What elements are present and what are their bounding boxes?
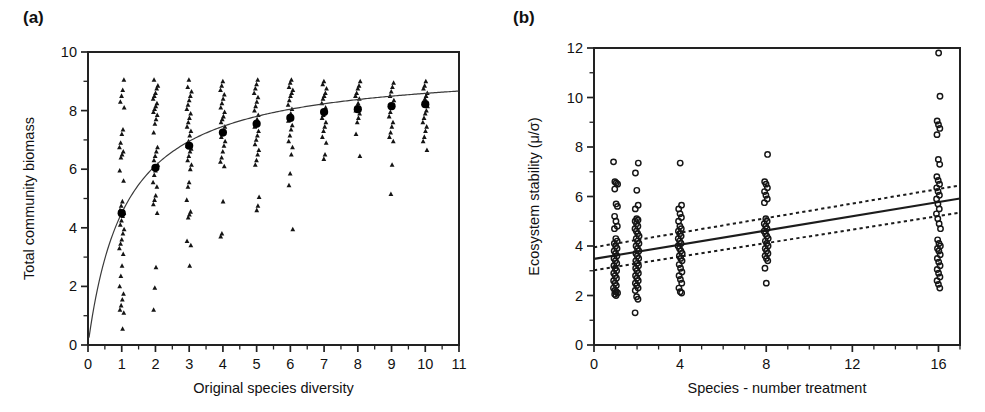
- data-point: [155, 112, 160, 117]
- figure-container: (a) 024681001234567891011Original specie…: [0, 0, 985, 412]
- data-point: [118, 99, 123, 104]
- data-point: [122, 227, 127, 232]
- data-point: [118, 307, 123, 312]
- y-tick-label: 2: [575, 288, 583, 304]
- data-point: [287, 183, 292, 188]
- data-point: [391, 98, 396, 103]
- data-point: [420, 120, 425, 125]
- panel-b-x-axis-title: Species - number treatment: [688, 380, 867, 396]
- data-point: [936, 50, 941, 55]
- mean-point: [118, 209, 126, 217]
- panel-a-x-axis-title: Original species diversity: [193, 380, 354, 396]
- data-point: [321, 79, 326, 84]
- data-point: [422, 134, 427, 139]
- data-point: [934, 132, 939, 137]
- data-point: [356, 115, 361, 120]
- data-point: [187, 180, 192, 185]
- data-point: [151, 202, 156, 207]
- data-point: [218, 87, 223, 92]
- data-point: [152, 172, 157, 177]
- y-tick-label: 4: [69, 220, 77, 236]
- y-tick-label: 4: [575, 238, 583, 254]
- panel-a-plot-frame: [88, 52, 459, 345]
- x-tick-label: 9: [388, 356, 396, 372]
- mean-point: [320, 108, 328, 116]
- data-point: [321, 156, 326, 161]
- data-point: [119, 203, 124, 208]
- x-tick-label: 10: [417, 356, 433, 372]
- data-point: [119, 237, 124, 242]
- data-point: [357, 83, 362, 88]
- data-point: [421, 139, 426, 144]
- data-point: [764, 280, 769, 285]
- panel-b-plot: 0246810120481216Species - number treatme…: [495, 0, 985, 412]
- data-point: [220, 79, 225, 84]
- data-point: [677, 160, 682, 165]
- data-point: [152, 158, 157, 163]
- x-tick-label: 4: [219, 356, 227, 372]
- data-point: [322, 124, 327, 129]
- data-point: [120, 326, 125, 331]
- data-point: [121, 149, 126, 154]
- data-point: [324, 86, 329, 91]
- data-point: [189, 89, 194, 94]
- x-tick-label: 12: [844, 356, 860, 372]
- data-point: [120, 297, 125, 302]
- data-point: [289, 152, 294, 157]
- x-tick-label: 4: [676, 356, 684, 372]
- data-point: [256, 148, 261, 153]
- data-point: [290, 227, 295, 232]
- data-point: [290, 145, 295, 150]
- panel-a-y-axis: 0246810: [61, 44, 88, 353]
- data-point: [188, 167, 193, 172]
- y-tick-label: 10: [567, 90, 583, 106]
- data-point: [121, 231, 126, 236]
- data-point: [252, 108, 257, 113]
- mean-point: [286, 114, 294, 122]
- data-point: [424, 124, 429, 129]
- data-point: [186, 120, 191, 125]
- data-point: [220, 149, 225, 154]
- data-point: [222, 92, 227, 97]
- data-point: [222, 109, 227, 114]
- data-point: [153, 193, 158, 198]
- data-point: [254, 99, 259, 104]
- data-point: [186, 153, 191, 158]
- y-tick-label: 6: [575, 189, 583, 205]
- data-point: [422, 83, 427, 88]
- data-point: [323, 90, 328, 95]
- data-point: [391, 139, 396, 144]
- data-point: [185, 124, 190, 129]
- data-point: [221, 199, 226, 204]
- data-point: [154, 149, 159, 154]
- data-point: [219, 83, 224, 88]
- x-tick-label: 16: [930, 356, 946, 372]
- data-point: [121, 127, 126, 132]
- x-tick-label: 1: [118, 356, 126, 372]
- data-point: [253, 142, 258, 147]
- data-point: [422, 115, 427, 120]
- data-point: [118, 274, 123, 279]
- data-point: [387, 114, 392, 119]
- data-point: [188, 209, 193, 214]
- mean-point: [219, 128, 227, 136]
- y-tick-label: 8: [69, 103, 77, 119]
- data-point: [221, 96, 226, 101]
- data-point: [184, 197, 189, 202]
- data-point: [423, 79, 428, 84]
- data-point: [254, 158, 259, 163]
- data-point: [222, 143, 227, 148]
- data-point: [256, 95, 261, 100]
- x-tick-label: 5: [253, 356, 261, 372]
- data-point: [354, 131, 359, 136]
- mean-point: [387, 102, 395, 110]
- y-tick-label: 0: [69, 337, 77, 353]
- data-point: [389, 124, 394, 129]
- data-point: [185, 158, 190, 163]
- data-point: [323, 152, 328, 157]
- data-point: [765, 152, 770, 157]
- data-point: [187, 115, 192, 120]
- data-point: [257, 194, 262, 199]
- data-point: [121, 178, 126, 183]
- data-point: [358, 79, 363, 84]
